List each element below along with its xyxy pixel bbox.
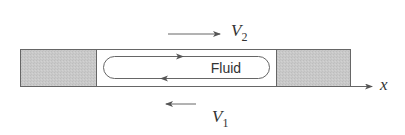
top-velocity-label: V2 bbox=[231, 21, 247, 44]
bottom-velocity-label: V1 bbox=[212, 107, 228, 130]
channel-gap bbox=[97, 50, 277, 87]
right-plate-block bbox=[277, 50, 351, 87]
fluid-label: Fluid bbox=[211, 60, 241, 76]
couette-flow-diagram: V2 Fluid x V1 bbox=[0, 0, 405, 135]
x-axis-label: x bbox=[379, 75, 388, 94]
flow-channel bbox=[21, 50, 351, 87]
left-plate-block bbox=[21, 50, 97, 87]
